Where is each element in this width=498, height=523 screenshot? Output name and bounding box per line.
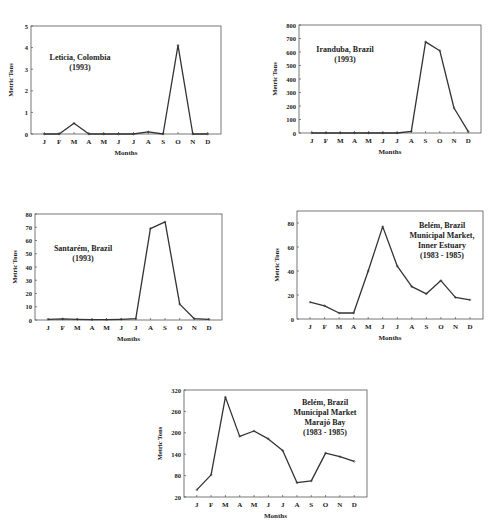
- y-tick-label: 30: [26, 277, 33, 284]
- x-tick-label: M: [71, 138, 78, 146]
- x-tick-label: J: [43, 138, 47, 146]
- chart-title-line: Belém, Brazil: [302, 398, 349, 407]
- y-tick-label: 80: [175, 472, 182, 479]
- chart-title-line: Municipal Market: [294, 408, 357, 417]
- plot-frame: [299, 25, 481, 133]
- y-tick-label: 10: [26, 303, 33, 310]
- x-tick-label: J: [195, 501, 199, 509]
- x-tick-label: F: [322, 323, 326, 331]
- x-tick-label: A: [409, 323, 414, 331]
- x-tick-label: D: [205, 138, 210, 146]
- x-tick-label: F: [57, 138, 61, 146]
- x-tick-label: A: [89, 324, 94, 332]
- chart-title-line: Marajó Bay: [304, 418, 345, 427]
- y-tick-label: 80: [26, 211, 33, 218]
- x-tick-label: N: [337, 501, 342, 509]
- x-tick-label: N: [451, 137, 456, 145]
- y-tick-label: 500: [286, 62, 296, 69]
- y-tick-label: 20: [175, 494, 182, 501]
- x-tick-label: A: [351, 323, 356, 331]
- plot-frame: [31, 26, 221, 134]
- x-tick-label: M: [74, 324, 81, 332]
- chart-santarem: 01020304050607080JFMAMJJASONDMonthsMetri…: [11, 211, 222, 344]
- y-tick-label: 200: [171, 429, 181, 436]
- x-tick-label: M: [222, 501, 229, 509]
- chart-title-line: (1993): [69, 63, 91, 72]
- y-tick-label: 50: [26, 250, 33, 257]
- y-tick-label: 5: [25, 23, 29, 30]
- x-tick-label: M: [365, 323, 372, 331]
- figure-canvas: 012345JFMAMJJASONDMonthsMetric TonsLetic…: [0, 0, 498, 523]
- x-tick-label: D: [352, 501, 357, 509]
- x-tick-label: O: [175, 138, 181, 146]
- x-tick-label: D: [206, 324, 211, 332]
- x-tick-label: J: [281, 501, 285, 509]
- y-tick-label: 600: [286, 49, 296, 56]
- chart-title-line: Belém, Brazil: [419, 221, 466, 230]
- y-tick-label: 0: [29, 317, 32, 324]
- x-tick-label: A: [146, 138, 151, 146]
- x-tick-label: M: [365, 137, 372, 145]
- x-tick-label: J: [310, 137, 314, 145]
- x-tick-label: A: [237, 501, 242, 509]
- x-tick-label: O: [438, 323, 444, 331]
- x-tick-label: O: [437, 137, 443, 145]
- x-tick-label: M: [336, 323, 343, 331]
- x-axis-label: Months: [379, 334, 402, 342]
- y-tick-label: 40: [288, 268, 295, 275]
- x-axis-label: Months: [379, 148, 402, 156]
- x-tick-label: J: [395, 137, 399, 145]
- x-tick-label: J: [267, 501, 271, 509]
- x-tick-label: A: [352, 137, 357, 145]
- x-tick-label: J: [134, 324, 138, 332]
- x-tick-label: J: [308, 323, 312, 331]
- x-tick-label: J: [132, 138, 136, 146]
- y-tick-label: 800: [286, 22, 296, 29]
- x-tick-label: D: [467, 323, 472, 331]
- chart-title-line: Leticia, Colombia: [50, 53, 111, 62]
- y-tick-label: 1: [25, 109, 28, 116]
- x-tick-label: N: [190, 138, 195, 146]
- x-tick-label: M: [337, 137, 344, 145]
- y-tick-label: 300: [286, 89, 296, 96]
- chart-leticia: 012345JFMAMJJASONDMonthsMetric TonsLetic…: [7, 23, 221, 158]
- x-tick-label: A: [294, 501, 299, 509]
- x-tick-label: O: [177, 324, 183, 332]
- y-tick-label: 700: [286, 35, 296, 42]
- x-tick-label: A: [409, 137, 414, 145]
- chart-belem-inner-estuary: 020406080JFMAMJJASONDMonthsMetric TonsBe…: [273, 211, 483, 342]
- x-tick-label: S: [424, 323, 428, 331]
- y-tick-label: 200: [286, 103, 296, 110]
- chart-title-line: (1983 - 1985): [303, 428, 347, 437]
- y-tick-label: 320: [171, 387, 181, 394]
- chart-title-line: (1993): [72, 254, 94, 263]
- x-tick-label: A: [86, 138, 91, 146]
- y-tick-label: 260: [171, 408, 181, 415]
- y-axis-label: Metric Tons: [11, 250, 18, 284]
- x-tick-label: J: [396, 323, 400, 331]
- x-tick-label: F: [209, 501, 213, 509]
- data-series-line: [48, 222, 209, 320]
- x-tick-label: J: [381, 323, 385, 331]
- x-tick-label: S: [163, 324, 167, 332]
- y-tick-label: 0: [291, 316, 294, 323]
- x-tick-label: J: [119, 324, 123, 332]
- x-tick-label: M: [251, 501, 258, 509]
- x-axis-label: Months: [115, 149, 138, 157]
- x-axis-label: Months: [264, 512, 287, 520]
- x-tick-label: M: [100, 138, 107, 146]
- x-tick-label: F: [61, 324, 65, 332]
- x-tick-label: J: [117, 138, 121, 146]
- y-axis-label: Metric Tons: [273, 248, 280, 282]
- y-tick-label: 3: [25, 66, 29, 73]
- y-tick-label: 60: [26, 237, 33, 244]
- chart-title-line: Municipal Market,: [410, 231, 475, 240]
- chart-title-line: Inner Estuary: [418, 241, 466, 250]
- x-tick-label: O: [323, 501, 329, 509]
- x-tick-label: A: [148, 324, 153, 332]
- x-tick-label: S: [424, 137, 428, 145]
- chart-title-line: Santarém, Brazil: [54, 244, 113, 253]
- x-tick-label: D: [466, 137, 471, 145]
- y-tick-label: 70: [26, 224, 33, 231]
- y-tick-label: 400: [286, 76, 296, 83]
